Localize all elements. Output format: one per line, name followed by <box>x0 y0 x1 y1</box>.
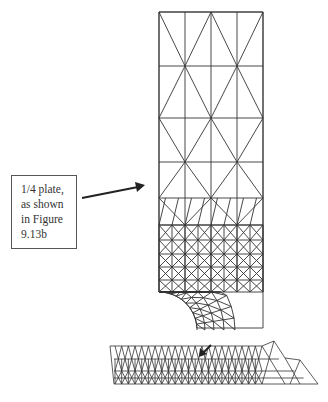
callout-line-3: in Figure <box>21 212 72 227</box>
refined-strip-mesh <box>110 341 318 384</box>
callout-box: 1/4 plate, as shown in Figure 9.13b <box>11 175 77 249</box>
detail-arrow <box>199 345 211 357</box>
callout-line-4: 9.13b <box>21 227 72 242</box>
quarter-plate-mesh <box>159 12 263 330</box>
callout-arrow <box>82 182 145 198</box>
callout-line-1: 1/4 plate, <box>21 182 72 197</box>
callout-line-2: as shown <box>21 197 72 212</box>
